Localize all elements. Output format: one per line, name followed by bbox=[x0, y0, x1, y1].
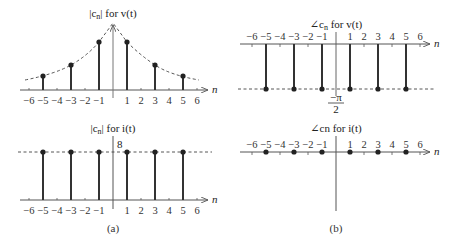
panel-a-top: |cn| for v(t) n −6 −5 −4 −3 −2 −1 1 2 3 … bbox=[20, 7, 218, 106]
svg-text:2: 2 bbox=[361, 31, 366, 42]
panel-title: |cn| for i(t) bbox=[90, 122, 135, 136]
svg-text:−5: −5 bbox=[260, 139, 271, 150]
svg-text:−1: −1 bbox=[316, 31, 327, 42]
svg-text:−2: −2 bbox=[302, 31, 313, 42]
svg-text:−5: −5 bbox=[37, 205, 48, 216]
level-label: 8 bbox=[117, 138, 123, 150]
panel-title: |cn| for v(t) bbox=[89, 7, 137, 21]
panel-title: ∠cn for i(t) bbox=[310, 122, 362, 135]
svg-text:4: 4 bbox=[166, 205, 172, 216]
caption-a: (a) bbox=[107, 222, 120, 235]
svg-text:1: 1 bbox=[347, 139, 352, 150]
panel-b-top: ∠cn for v(t) n −6 −5 −4 −3 −2 −1 1 2 3 4 bbox=[238, 18, 440, 115]
svg-text:3: 3 bbox=[375, 139, 380, 150]
svg-text:−4: −4 bbox=[51, 205, 63, 216]
panel-a-bottom: |cn| for i(t) 8 n −6 −5 −4 −3 −2 −1 1 2 … bbox=[18, 122, 218, 235]
svg-text:1: 1 bbox=[124, 95, 129, 106]
svg-text:−3: −3 bbox=[288, 139, 299, 150]
svg-text:6: 6 bbox=[194, 205, 199, 216]
svg-text:4: 4 bbox=[166, 95, 172, 106]
axis-label-n: n bbox=[434, 37, 440, 49]
axis-label-n: n bbox=[434, 145, 440, 157]
svg-text:−2: −2 bbox=[79, 95, 90, 106]
svg-text:−1: −1 bbox=[93, 205, 104, 216]
svg-text:5: 5 bbox=[180, 95, 185, 106]
svg-text:5: 5 bbox=[180, 205, 185, 216]
tick-labels: −6 −5 −4 −3 −2 −1 1 2 3 4 5 6 bbox=[23, 95, 199, 106]
svg-text:−3: −3 bbox=[65, 205, 76, 216]
panel-b-bottom: ∠cn for i(t) n −6 −5 −4 −3 −2 −1 1 2 3 4… bbox=[240, 122, 440, 235]
svg-text:5: 5 bbox=[403, 31, 408, 42]
svg-text:2: 2 bbox=[361, 139, 366, 150]
tick-labels: −6 −5 −4 −3 −2 −1 1 2 3 4 5 6 bbox=[246, 31, 422, 42]
svg-text:−4: −4 bbox=[274, 31, 286, 42]
svg-text:−6: −6 bbox=[246, 31, 257, 42]
caption-b: (b) bbox=[330, 222, 343, 235]
svg-text:4: 4 bbox=[389, 31, 395, 42]
svg-text:−6: −6 bbox=[23, 205, 34, 216]
svg-text:2: 2 bbox=[333, 103, 339, 115]
svg-text:3: 3 bbox=[152, 95, 157, 106]
svg-text:−3: −3 bbox=[65, 95, 76, 106]
svg-text:−π: −π bbox=[330, 91, 342, 103]
svg-text:6: 6 bbox=[194, 95, 199, 106]
svg-text:−4: −4 bbox=[51, 95, 63, 106]
axis-label-n: n bbox=[212, 83, 218, 95]
svg-text:−1: −1 bbox=[316, 139, 327, 150]
svg-text:3: 3 bbox=[152, 205, 157, 216]
svg-text:−5: −5 bbox=[260, 31, 271, 42]
svg-text:2: 2 bbox=[138, 95, 143, 106]
svg-text:5: 5 bbox=[403, 139, 408, 150]
svg-text:−6: −6 bbox=[23, 95, 34, 106]
svg-text:−1: −1 bbox=[93, 95, 104, 106]
svg-text:1: 1 bbox=[347, 31, 352, 42]
tick-labels: −6 −5 −4 −3 −2 −1 1 2 3 4 5 6 bbox=[23, 205, 199, 216]
svg-text:2: 2 bbox=[138, 205, 143, 216]
svg-text:4: 4 bbox=[389, 139, 395, 150]
svg-text:−3: −3 bbox=[288, 31, 299, 42]
panel-title: ∠cn for v(t) bbox=[310, 18, 363, 32]
svg-text:6: 6 bbox=[417, 139, 422, 150]
tick-labels: −6 −5 −4 −3 −2 −1 1 2 3 4 5 6 bbox=[246, 139, 422, 150]
axis-label-n: n bbox=[212, 193, 218, 205]
svg-text:−6: −6 bbox=[246, 139, 257, 150]
level-label-neg-pi-over-2: −π 2 bbox=[328, 91, 344, 115]
svg-text:1: 1 bbox=[124, 205, 129, 216]
svg-text:−4: −4 bbox=[274, 139, 286, 150]
svg-text:6: 6 bbox=[417, 31, 422, 42]
svg-text:−2: −2 bbox=[79, 205, 90, 216]
svg-text:3: 3 bbox=[375, 31, 380, 42]
svg-text:−2: −2 bbox=[302, 139, 313, 150]
envelope-curve bbox=[25, 23, 199, 80]
spectrum-diagram: |cn| for v(t) n −6 −5 −4 −3 −2 −1 1 2 3 … bbox=[0, 0, 454, 242]
svg-text:−5: −5 bbox=[37, 95, 48, 106]
